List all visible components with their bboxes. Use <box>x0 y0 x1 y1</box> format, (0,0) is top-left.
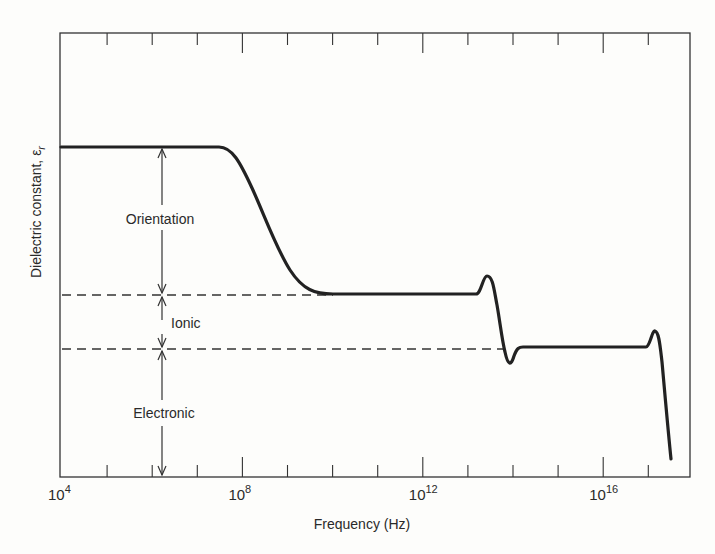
dielectric-constant-chart: Orientation Ionic Electronic 10410810121… <box>0 0 715 554</box>
x-tick-label: 104 <box>48 483 71 503</box>
x-tick-labels: 10410810121016 <box>48 483 618 503</box>
y-axis-label-main: Dielectric constant, ε <box>28 150 44 278</box>
x-tick-label: 1016 <box>589 483 618 503</box>
svg-text:Dielectric constant, εr: Dielectric constant, εr <box>28 145 47 278</box>
x-tick-label: 108 <box>228 483 251 503</box>
x-axis-label: Frequency (Hz) <box>314 516 410 532</box>
region-label-electronic: Electronic <box>133 405 194 421</box>
y-axis-label: Dielectric constant, εr <box>28 145 47 278</box>
x-tick-label: 1012 <box>409 483 438 503</box>
region-label-orientation: Orientation <box>126 211 194 227</box>
annotation-arrows <box>158 149 166 475</box>
y-axis-label-subscript: r <box>35 145 47 150</box>
region-label-ionic: Ionic <box>171 315 201 331</box>
